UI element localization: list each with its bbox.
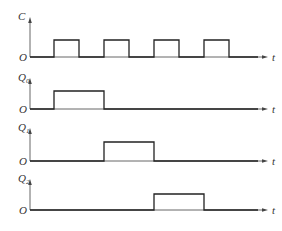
signal-name-label: Q1	[18, 121, 29, 135]
origin-label: O	[19, 204, 27, 216]
waveform	[30, 40, 258, 57]
time-axis-arrow-icon	[262, 159, 268, 163]
time-axis-label: t	[272, 103, 276, 115]
origin-label: O	[19, 51, 27, 63]
time-axis-arrow-icon	[262, 55, 268, 59]
signal-name-label: Q2	[18, 172, 30, 186]
time-axis-label: t	[272, 155, 276, 167]
signal-name-label: C	[18, 10, 26, 22]
origin-label: O	[19, 103, 27, 115]
timing-diagram: tOCtOQ0tOQ1tOQ2	[0, 0, 282, 231]
time-axis-label: t	[272, 204, 276, 216]
time-axis-label: t	[272, 51, 276, 63]
y-axis-arrow-icon	[28, 17, 32, 23]
origin-label: O	[19, 155, 27, 167]
signal-q2: tOQ2	[18, 172, 276, 216]
waveform	[30, 194, 258, 210]
time-axis-arrow-icon	[262, 208, 268, 212]
waveform	[30, 142, 258, 161]
time-axis-arrow-icon	[262, 107, 268, 111]
signal-q0: tOQ0	[18, 71, 276, 115]
signal-name-label: Q0	[18, 71, 30, 85]
timing-diagram-svg: tOCtOQ0tOQ1tOQ2	[0, 0, 282, 231]
waveform	[30, 91, 258, 109]
signal-c: tOC	[18, 10, 276, 63]
signal-q1: tOQ1	[18, 121, 276, 167]
